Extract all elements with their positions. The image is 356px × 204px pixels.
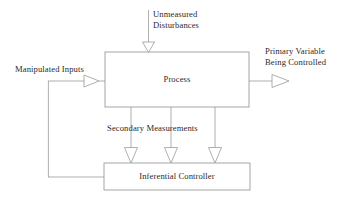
primary-variable-arrowhead-icon: [272, 75, 289, 88]
label-primary-variable-line2: Being Controlled: [265, 57, 326, 68]
secondary-measurement-arrowhead-icon-3: [209, 148, 222, 164]
label-inferential-controller: Inferential Controller: [104, 171, 250, 182]
label-secondary-measurements: Secondary Measurements: [107, 123, 198, 134]
secondary-measurement-arrowhead-icon-1: [125, 148, 138, 164]
label-unmeasured-disturbances-line2: Disturbances: [153, 20, 199, 31]
label-primary-variable-line1: Primary Variable: [265, 46, 326, 57]
label-manipulated-inputs: Manipulated Inputs: [15, 64, 84, 75]
label-unmeasured-disturbances: Unmeasured Disturbances: [153, 9, 199, 30]
manipulated-inputs-arrowhead-icon: [84, 75, 99, 87]
unmeasured-disturbances-arrowhead-icon: [143, 42, 155, 53]
label-unmeasured-disturbances-line1: Unmeasured: [153, 9, 199, 20]
label-primary-variable: Primary Variable Being Controlled: [265, 46, 326, 67]
diagram-canvas: Unmeasured Disturbances Primary Variable…: [0, 0, 356, 204]
label-process: Process: [105, 74, 249, 85]
secondary-measurement-arrowhead-icon-2: [165, 148, 178, 164]
